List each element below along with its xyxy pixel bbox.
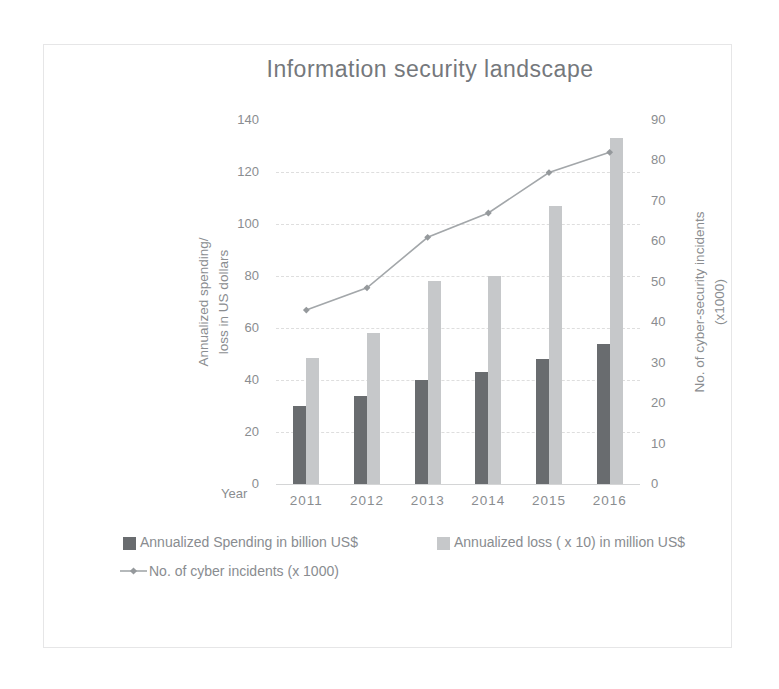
right-tick-30: 30 (651, 356, 665, 370)
right-tick-10: 10 (651, 437, 665, 451)
x-tick-2013: 2013 (411, 494, 445, 508)
right-tick-90: 90 (651, 113, 665, 127)
incidents-marker-2011 (303, 307, 310, 314)
legend-swatch-loss (437, 537, 450, 550)
right-axis-title-line2: (x1000) (710, 212, 730, 393)
left-axis-title: Annualized spending/ loss in US dollars (191, 120, 237, 484)
left-axis-title-line1: Annualized spending/ (194, 237, 214, 366)
x-axis-title: Year (221, 486, 247, 501)
left-tick-40: 40 (245, 373, 259, 387)
left-tick-100: 100 (237, 217, 259, 231)
right-tick-40: 40 (651, 315, 665, 329)
incidents-line (306, 152, 609, 310)
right-tick-70: 70 (651, 194, 665, 208)
left-tick-0: 0 (252, 477, 259, 491)
right-axis-title-line1: No. of cyber-security incidents (690, 212, 710, 393)
incidents-line-layer (276, 120, 640, 484)
x-tick-2011: 2011 (290, 494, 323, 508)
right-tick-50: 50 (651, 275, 665, 289)
left-tick-60: 60 (245, 321, 259, 335)
left-tick-20: 20 (245, 425, 259, 439)
incidents-marker-2016 (606, 149, 613, 156)
legend-swatch-spending (123, 537, 136, 550)
right-tick-0: 0 (651, 477, 658, 491)
right-axis-title: No. of cyber-security incidents (x1000) (686, 120, 734, 484)
x-tick-2012: 2012 (350, 494, 384, 508)
x-tick-2014: 2014 (471, 494, 505, 508)
x-tick-2016: 2016 (593, 494, 627, 508)
x-tick-2015: 2015 (532, 494, 566, 508)
right-tick-80: 80 (651, 153, 665, 167)
left-axis-title-line2: loss in US dollars (214, 237, 234, 366)
plot-area (276, 120, 640, 485)
chart-title: Information security landscape (230, 56, 630, 83)
left-tick-120: 120 (237, 165, 259, 179)
right-tick-60: 60 (651, 234, 665, 248)
left-tick-80: 80 (245, 269, 259, 283)
legend-label-incidents: No. of cyber incidents (x 1000) (149, 563, 339, 579)
legend-line-marker-icon (120, 566, 147, 576)
legend-label-spending: Annualized Spending in billion US$ (140, 534, 358, 550)
right-tick-20: 20 (651, 396, 665, 410)
figure-page: Information security landscape Annualize… (0, 0, 779, 689)
legend-label-loss: Annualized loss ( x 10) in million US$ (454, 534, 685, 550)
left-tick-140: 140 (237, 113, 259, 127)
